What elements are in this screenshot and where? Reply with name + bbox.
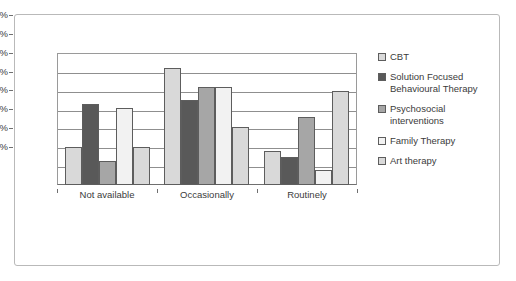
bar [298,117,315,185]
bar [264,151,281,185]
bar [181,100,198,185]
x-axis-tick-mark [157,189,158,193]
legend-swatch-icon [378,137,386,145]
y-axis-tick-mark [9,72,13,73]
chart-figure: 0%10%20%30%40%50%60%70% Not availableOcc… [14,14,500,266]
y-axis-tick-mark [9,34,13,35]
y-axis-tick-mark [9,109,13,110]
legend-swatch-icon [378,105,386,113]
y-axis-tick-mark [9,53,13,54]
y-axis-tick-mark [9,128,13,129]
x-axis-tick-label: Occasionally [157,189,257,200]
bar [281,157,298,185]
bar-group [58,53,157,185]
legend-swatch-icon [378,157,386,165]
bar [65,147,82,185]
legend-item: Family Therapy [378,135,496,147]
legend-label: Psychosocial interventions [390,103,496,127]
y-axis-tick-mark [9,15,13,16]
clipped-caption-text [41,6,341,15]
legend-label: Art therapy [390,155,436,167]
y-axis-tick-label: 20% [0,101,8,117]
x-axis-labels: Not availableOccasionallyRoutinely [57,189,357,200]
chart-legend: CBTSolution Focused Behavioural TherapyP… [378,51,496,175]
y-axis-tick-mark [9,90,13,91]
legend-item: Solution Focused Behavioural Therapy [378,71,496,95]
x-axis-tick-mark [257,189,258,193]
y-axis-tick-label: 40% [0,64,8,80]
legend-swatch-icon [378,53,386,61]
legend-item: Psychosocial interventions [378,103,496,127]
x-axis-tick-mark [357,189,358,193]
y-axis-tick-label: 50% [0,45,8,61]
bar-group [257,53,356,185]
legend-label: Family Therapy [390,135,455,147]
legend-label: Solution Focused Behavioural Therapy [390,71,496,95]
y-axis-tick-label: 60% [0,26,8,42]
bar [315,170,332,185]
bar-groups [57,53,357,185]
y-axis-tick-mark [9,147,13,148]
x-axis-tick-label: Not available [57,189,157,200]
bar [164,68,181,185]
y-axis-tick-label: 30% [0,82,8,98]
bar [232,127,249,185]
y-axis-tick-label: 10% [0,120,8,136]
y-axis: 0%10%20%30%40%50%60%70% [0,7,13,155]
legend-swatch-icon [378,73,386,81]
y-axis-tick-label: 70% [0,7,8,23]
bar [116,108,133,185]
legend-item: CBT [378,51,496,63]
bar [82,104,99,185]
bar [198,87,215,185]
legend-label: CBT [390,51,409,63]
x-axis-tick-label: Routinely [257,189,357,200]
bar [99,161,116,186]
x-axis-tick-mark [57,189,58,193]
bar-group [157,53,256,185]
bar [332,91,349,185]
bar [215,87,232,185]
plot-wrapper [57,53,357,185]
legend-item: Art therapy [378,155,496,167]
bar [133,147,150,185]
y-axis-tick-label: 0% [0,139,8,155]
